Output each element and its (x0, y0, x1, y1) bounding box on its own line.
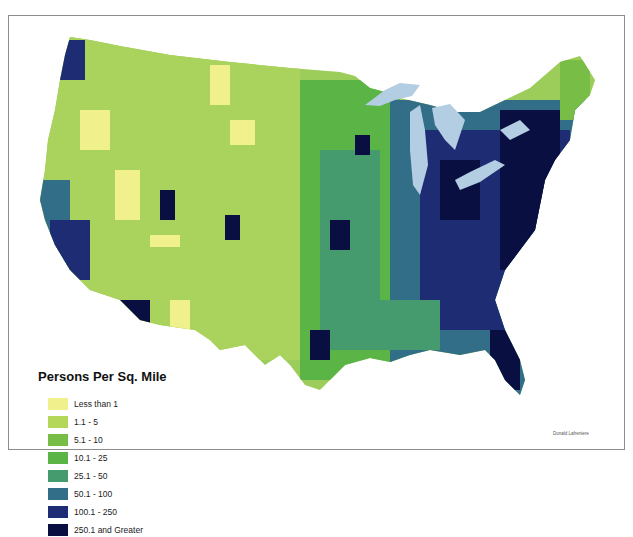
legend-label: 50.1 - 100 (74, 489, 112, 499)
legend-label: 25.1 - 50 (74, 471, 108, 481)
us-outline (30, 30, 610, 410)
legend-label: 1.1 - 5 (74, 417, 98, 427)
legend-swatch (48, 398, 68, 410)
legend-swatch (48, 470, 68, 482)
legend-label: Less than 1 (74, 399, 118, 409)
legend-label: 100.1 - 250 (74, 507, 117, 517)
legend-title: Persons Per Sq. Mile (38, 369, 167, 384)
legend-label: 5.1 - 10 (74, 435, 103, 445)
legend-swatch (48, 434, 68, 446)
legend-swatch (48, 488, 68, 500)
legend-item: 250.1 and Greater (48, 523, 143, 537)
legend-item: 25.1 - 50 (48, 469, 108, 483)
legend-item: 1.1 - 5 (48, 415, 98, 429)
legend-label: 250.1 and Greater (74, 525, 143, 535)
legend-item: 100.1 - 250 (48, 505, 117, 519)
legend-label: 10.1 - 25 (74, 453, 108, 463)
legend-item: 10.1 - 25 (48, 451, 108, 465)
legend-swatch (48, 506, 68, 518)
legend-swatch (48, 524, 68, 536)
legend-item: 5.1 - 10 (48, 433, 103, 447)
author-credit: Donald Lafreniere (553, 431, 589, 436)
legend-swatch (48, 416, 68, 428)
legend-swatch (48, 452, 68, 464)
legend-item: 50.1 - 100 (48, 487, 112, 501)
legend-item: Less than 1 (48, 397, 118, 411)
